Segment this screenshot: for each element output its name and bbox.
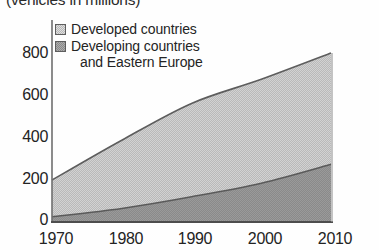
chart-figure: (vehicles in millions) <box>0 0 379 250</box>
legend-item-developed: Developed countries <box>55 21 203 37</box>
legend-label-developing-line2: and Eastern Europe <box>71 54 203 70</box>
legend-label-developing: Developing countriesand Eastern Europe <box>71 38 203 70</box>
legend-swatch-light-gray-icon <box>55 24 66 35</box>
x-tick-2010: 2010 <box>318 230 352 247</box>
legend-swatch-dark-gray-icon <box>55 41 66 52</box>
chart-legend: Developed countries Developing countries… <box>55 21 203 71</box>
x-tick-1970: 1970 <box>39 230 73 247</box>
x-tick-2000: 2000 <box>248 230 282 247</box>
y-tick-400: 400 <box>4 129 48 145</box>
legend-label-developed-line1: Developed countries <box>71 21 197 37</box>
y-tick-0: 0 <box>4 212 48 228</box>
legend-label-developing-line1: Developing countries <box>71 38 200 54</box>
y-tick-600: 600 <box>4 87 48 103</box>
x-tick-1980: 1980 <box>109 230 143 247</box>
x-axis-tick-labels: 1970 1980 1990 2000 2010 <box>0 230 379 250</box>
y-tick-200: 200 <box>4 171 48 187</box>
y-axis-tick-labels: 800 600 400 200 0 <box>2 0 48 250</box>
legend-item-developing: Developing countriesand Eastern Europe <box>55 38 203 70</box>
y-tick-800: 800 <box>4 45 48 61</box>
legend-label-developed: Developed countries <box>71 21 197 37</box>
x-tick-1990: 1990 <box>178 230 212 247</box>
